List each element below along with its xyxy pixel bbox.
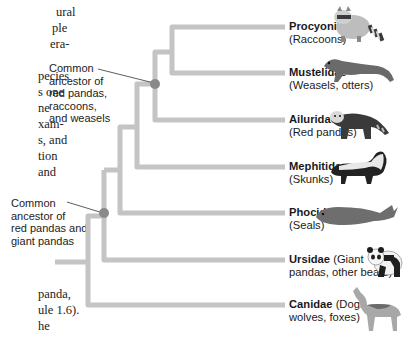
- common-name-inline: (Giant: [330, 253, 364, 265]
- branch-mephitidae: [137, 84, 285, 167]
- raccoon-icon: [329, 3, 387, 45]
- seal-icon: [314, 201, 400, 229]
- phylogeny-figure: ural ple era- pecies s one ne xam- s, an…: [0, 0, 407, 337]
- red-panda-icon: [327, 103, 391, 141]
- weasel-icon: [320, 52, 400, 88]
- branch-phocidae: [120, 127, 285, 213]
- skunk-icon: [325, 148, 389, 188]
- ancestor-node-upper: [150, 79, 160, 89]
- giant-panda-icon: [366, 243, 404, 279]
- branch-procyonidae-mustelidae: [172, 27, 285, 73]
- wolf-icon: [347, 285, 403, 333]
- ancestor-node-lower: [99, 208, 109, 218]
- leader-line-lower: [67, 202, 103, 213]
- leader-line-upper: [98, 69, 154, 83]
- family-name: Ursidae: [289, 253, 330, 265]
- family-name: Canidae: [289, 298, 333, 310]
